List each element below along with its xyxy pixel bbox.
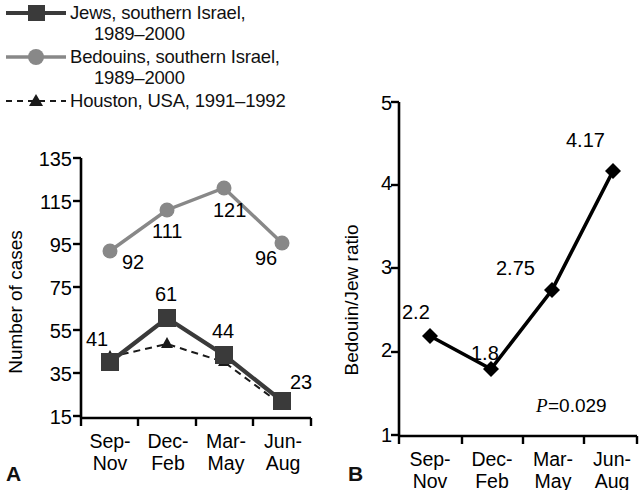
panel-a-xticklabels: Sep- Nov Dec- Feb Mar- May Jun- Aug [89,430,302,474]
legend-label-bedouins-line1: Bedouins, southern Israel, [70,46,280,67]
panel-a-ytick-95: 95 [50,234,72,256]
panel-a-xtick-1-line2: Feb [151,452,185,474]
panel-b-ytick-3: 3 [381,256,392,278]
panel-b-xtick-2-line1: Mar- [533,448,573,470]
data-label-bedouins-2: 121 [213,199,246,221]
legend-label-houston-line1: Houston, USA, 1991–1992 [70,90,286,111]
panel-a-xtick-2-line1: Mar- [206,430,246,452]
data-point-jews-1 [158,309,176,327]
panel-b-xticklabels: Sep- Nov Dec- Feb Mar- May Jun- Aug [409,448,631,490]
data-point-bedouins-0 [103,244,118,259]
panel-b-ytick-2: 2 [381,339,392,361]
panel-b-xtick-1-line1: Dec- [471,448,512,470]
black-square-solid-line-icon [4,2,70,26]
panel-a-ytick-115: 115 [40,191,72,213]
panel-b-xtick-1-line2: Feb [475,470,509,490]
data-label-jews-2: 44 [212,320,234,342]
data-label-bedouins-1: 111 [152,220,182,242]
panel-b-ytick-1: 1 [381,424,392,446]
panel-a-xtick-3-line2: Aug [266,452,301,474]
panel-b-xtick-3-line1: Jun- [593,448,631,470]
panel-a-xtick-0-line1: Sep- [89,430,130,452]
legend-item-bedouins: Bedouins, southern Israel, 1989–2000 [4,46,320,88]
data-point-jews-0 [101,353,119,371]
panel-a-xtick-2-line2: May [208,452,245,474]
data-point-jews-3 [273,392,291,410]
legend-key-houston [4,90,70,114]
data-point-bedouins-1 [160,203,175,218]
legend-key-jews [4,2,70,26]
data-point-bedouins-2 [217,181,232,196]
panel-b-ytick-4: 4 [381,172,392,194]
legend-item-houston: Houston, USA, 1991–1992 [4,90,320,114]
panel-a-ylabel: Number of cases [5,230,26,374]
data-label-jews-1: 61 [155,283,177,305]
gray-circle-solid-line-icon [4,46,70,70]
data-label-jews-3: 23 [290,371,312,393]
data-point-ratio-0 [422,328,438,344]
pvalue-value: =0.029 [548,395,607,416]
black-triangle-dashed-line-icon [4,90,70,114]
panel-a-ytick-15: 15 [50,406,72,428]
panel-b-xtick-0-line1: Sep- [409,448,450,470]
legend-item-jews: Jews, southern Israel, 1989–2000 [4,2,320,44]
legend-label-bedouins: Bedouins, southern Israel, 1989–2000 [70,46,280,88]
figure-container: Jews, southern Israel, 1989–2000 Bedouin… [0,0,640,494]
panel-b-xtick-2-line2: May [535,470,572,490]
panel-b-letter: B [348,462,363,486]
panel-a-ytick-75: 75 [50,277,72,299]
data-label-ratio-0: 2.2 [402,301,430,323]
series-ratio: 2.2 1.8 2.75 4.17 [402,129,621,377]
legend-key-bedouins [4,46,70,70]
series-bedouins: 92 111 121 96 [103,181,290,274]
data-label-jews-0: 41 [86,328,108,350]
panel-a-xtick-3-line1: Jun- [264,430,302,452]
pvalue-symbol: P [535,395,548,416]
pvalue-annotation: P =0.029 [535,395,607,416]
panel-b-chart: Bedouin/Jew ratio 5 4 3 2 1 [340,90,640,490]
series-jews: 41 61 44 23 [86,283,312,410]
data-label-bedouins-0: 92 [122,251,144,273]
panel-a-ytick-55: 55 [50,320,72,342]
data-label-bedouins-3: 96 [255,247,277,269]
panel-a-letter: A [6,462,21,486]
data-label-ratio-1: 1.8 [471,342,499,364]
panel-b-xtick-0-line2: Nov [413,470,448,490]
panel-a-xtick-1-line1: Dec- [147,430,188,452]
legend-label-bedouins-line2: 1989–2000 [70,67,280,88]
panel-b-ylabel: Bedouin/Jew ratio [341,224,362,375]
data-label-ratio-2: 2.75 [496,257,535,279]
panel-b-ytick-5: 5 [381,92,392,114]
data-point-jews-2 [215,346,233,364]
panel-a-axes [73,158,311,426]
legend-label-houston: Houston, USA, 1991–1992 [70,90,286,111]
panel-a-chart: Number of cases 135 115 95 75 55 35 15 [0,134,340,494]
legend-label-jews-line1: Jews, southern Israel, [70,2,246,23]
panel-b-xtick-3-line2: Aug [595,470,630,490]
panel-a-ytick-135: 135 [39,148,72,170]
panel-a-xtick-0-line2: Nov [93,452,128,474]
data-point-houston-1 [161,337,173,348]
legend-label-jews-line2: 1989–2000 [70,23,246,44]
data-label-ratio-3: 4.17 [566,129,605,151]
data-point-ratio-3 [605,163,621,179]
legend: Jews, southern Israel, 1989–2000 Bedouin… [4,2,320,116]
panel-a-ytick-35: 35 [50,363,72,385]
legend-label-jews: Jews, southern Israel, 1989–2000 [70,2,246,44]
